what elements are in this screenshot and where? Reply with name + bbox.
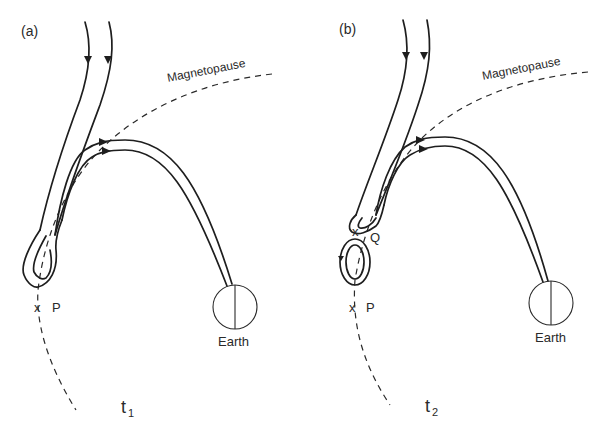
field-line-incoming-2 [376, 20, 430, 215]
arrow-down-icon [420, 52, 428, 60]
x-point-marker: x [349, 300, 356, 315]
magnetopause-line [354, 72, 588, 405]
field-line-closed-2 [384, 146, 543, 282]
x-point-label-p: P [52, 300, 61, 315]
earth-label: Earth [218, 334, 249, 349]
plasmoid-inner [346, 245, 364, 279]
x-point-marker: x [34, 300, 41, 315]
field-line-closed-2 [62, 150, 227, 286]
reconnection-diagram: (a) Magnetopause Earth x P t1 (b) Magnet… [0, 0, 603, 433]
upper-loop-inner [358, 218, 376, 228]
time-label: t1 [121, 397, 134, 419]
magnetopause-line [38, 74, 272, 410]
panel-b: (b) Magnetopause Earth x Q x P t2 [338, 20, 588, 418]
arrow-down-icon [338, 256, 344, 261]
panel-a: (a) Magnetopause Earth x P t1 [21, 22, 272, 419]
x-point-label-q: Q [370, 230, 380, 245]
field-line-incoming-1 [356, 20, 407, 215]
panel-b-label: (b) [339, 21, 356, 37]
plasmoid-outer [340, 239, 370, 285]
arrow-right-icon [99, 138, 108, 146]
earth-label: Earth [535, 330, 566, 345]
magnetopause-label: Magnetopause [481, 54, 562, 83]
x-point-marker: x [352, 224, 359, 239]
arrow-right-icon [419, 145, 428, 153]
field-line-closed-1 [55, 140, 232, 284]
x-point-label-p: P [366, 300, 375, 315]
arrow-right-icon [102, 147, 111, 155]
field-line-incoming-1 [40, 22, 89, 230]
loop-inner [34, 236, 52, 279]
arrow-down-icon [402, 52, 410, 60]
time-label: t2 [425, 396, 438, 418]
arrow-down-icon [84, 56, 92, 64]
field-line-closed-1 [376, 137, 548, 281]
panel-a-label: (a) [21, 23, 38, 39]
